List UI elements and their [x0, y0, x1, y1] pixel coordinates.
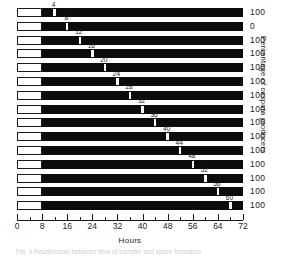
- x-axis-tick: [92, 214, 93, 220]
- bar-marker: [104, 64, 107, 71]
- bar-segment-filled: [42, 187, 243, 196]
- bar-marker-label: 12: [75, 29, 82, 36]
- row-percentage-label: 100: [250, 105, 265, 114]
- bar-segment-filled: [42, 132, 243, 141]
- bar-marker: [129, 92, 132, 99]
- bar-segment-open: [17, 201, 42, 210]
- bar-row: [17, 63, 243, 72]
- x-axis-minor-tick: [180, 217, 181, 220]
- bar-marker: [53, 9, 56, 16]
- bar-row: [17, 160, 243, 169]
- bar-marker: [154, 119, 157, 126]
- bar-segment-filled: [42, 118, 243, 127]
- bar-segment-open: [17, 118, 42, 127]
- x-axis-minor-tick: [205, 217, 206, 220]
- x-axis-title: Hours: [0, 236, 260, 245]
- bar-marker: [66, 23, 69, 30]
- row-percentage-label: 100: [250, 118, 265, 127]
- x-axis-tick-label: 48: [163, 222, 172, 231]
- bar-marker-label: 52: [201, 167, 208, 174]
- bar-segment-open: [17, 22, 42, 31]
- row-percentage-label: 100: [250, 160, 265, 169]
- bar-row: [17, 174, 243, 183]
- x-axis-line: [17, 220, 243, 221]
- bar-row: [17, 132, 243, 141]
- x-axis-tick: [42, 214, 43, 220]
- bar-marker: [229, 202, 232, 209]
- row-percentage-label: 100: [250, 132, 265, 141]
- bar-row: [17, 201, 243, 210]
- x-axis-tick: [193, 214, 194, 220]
- bar-row: [17, 105, 243, 114]
- bar-marker-label: 40: [163, 125, 170, 132]
- x-axis-tick-label: 40: [138, 222, 147, 231]
- bar-marker-label: 4: [52, 1, 56, 8]
- bar-row: [17, 49, 243, 58]
- bar-marker: [79, 37, 82, 44]
- row-percentage-label: 100: [250, 8, 265, 17]
- x-axis-tick: [218, 214, 219, 220]
- x-axis-tick-label: 32: [113, 222, 122, 231]
- row-percentage-label: 100: [250, 49, 265, 58]
- bar-marker: [192, 161, 195, 168]
- bar-marker: [91, 50, 94, 57]
- x-axis-minor-tick: [155, 217, 156, 220]
- bar-row: [17, 91, 243, 100]
- bar-segment-open: [17, 105, 42, 114]
- bar-marker-label: 20: [100, 56, 107, 63]
- row-percentage-label: 0: [250, 22, 255, 31]
- figure-caption: Fig. 4 Relationship between time of tran…: [16, 248, 276, 255]
- bar-segment-open: [17, 8, 42, 17]
- bar-marker-label: 28: [125, 84, 132, 91]
- bar-marker-label: 56: [213, 180, 220, 187]
- row-percentage-label: 100: [250, 174, 265, 183]
- x-axis-tick-label: 72: [238, 222, 247, 231]
- x-axis-tick-label: 16: [62, 222, 71, 231]
- bar-marker-label: 24: [113, 70, 120, 77]
- bar-segment-filled: [42, 160, 243, 169]
- bar-marker-label: 32: [138, 98, 145, 105]
- x-axis-tick: [117, 214, 118, 220]
- bar-marker: [141, 106, 144, 113]
- bar-row: [17, 118, 243, 127]
- bar-marker: [204, 175, 207, 182]
- bar-row: [17, 22, 243, 31]
- bar-segment-filled: [42, 63, 243, 72]
- bar-segment-filled: [42, 49, 243, 58]
- bar-marker-label: 48: [188, 153, 195, 160]
- x-axis-tick: [143, 214, 144, 220]
- bar-segment-open: [17, 77, 42, 86]
- bar-segment-filled: [42, 146, 243, 155]
- x-axis-minor-tick: [230, 217, 231, 220]
- x-axis-tick-label: 64: [213, 222, 222, 231]
- bar-marker: [166, 133, 169, 140]
- row-percentage-label: 100: [250, 91, 265, 100]
- plot-area: [17, 8, 243, 216]
- bar-segment-open: [17, 187, 42, 196]
- bar-marker-label: 44: [176, 139, 183, 146]
- x-axis-tick: [67, 214, 68, 220]
- bar-segment-open: [17, 49, 42, 58]
- bar-marker-label: 36: [150, 111, 157, 118]
- bar-segment-open: [17, 36, 42, 45]
- bar-marker-label: 8: [64, 15, 68, 22]
- bar-marker: [179, 147, 182, 154]
- x-axis-minor-tick: [130, 217, 131, 220]
- bar-segment-filled: [42, 77, 243, 86]
- bar-segment-filled: [42, 201, 243, 210]
- bar-segment-open: [17, 174, 42, 183]
- x-axis-tick-label: 0: [15, 222, 20, 231]
- bar-segment-filled: [42, 36, 243, 45]
- bar-marker-label: 16: [88, 42, 95, 49]
- x-axis-tick-label: 8: [40, 222, 45, 231]
- bar-marker: [116, 78, 119, 85]
- x-axis-minor-tick: [105, 217, 106, 220]
- x-axis-tick-label: 56: [188, 222, 197, 231]
- x-axis-tick: [243, 214, 244, 220]
- bar-marker: [217, 188, 220, 195]
- bar-row: [17, 187, 243, 196]
- row-percentage-label: 100: [250, 77, 265, 86]
- x-axis-tick: [168, 214, 169, 220]
- bar-segment-open: [17, 63, 42, 72]
- x-axis-minor-tick: [30, 217, 31, 220]
